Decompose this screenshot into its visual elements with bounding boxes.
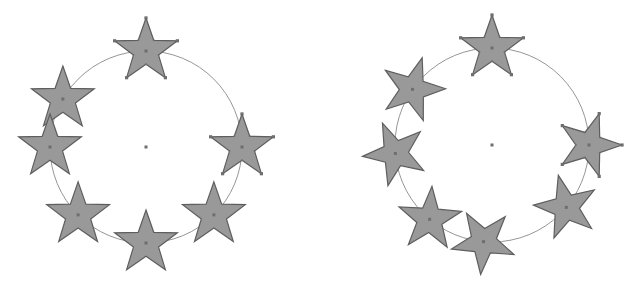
vertex-handle[interactable] xyxy=(260,172,263,175)
vertex-handle[interactable] xyxy=(233,135,235,137)
center-point-icon[interactable] xyxy=(491,144,494,147)
vertex-handle[interactable] xyxy=(599,136,601,138)
star-center-handle[interactable] xyxy=(565,206,568,209)
vertex-handle[interactable] xyxy=(145,63,147,65)
star-center-handle[interactable] xyxy=(61,98,64,101)
vertex-handle[interactable] xyxy=(137,39,139,41)
star-center-handle[interactable] xyxy=(411,88,414,91)
star-center-handle[interactable] xyxy=(145,50,148,53)
vertex-handle[interactable] xyxy=(144,16,147,19)
star-icon[interactable] xyxy=(31,66,94,126)
vertex-handle[interactable] xyxy=(504,51,506,53)
vertex-handle[interactable] xyxy=(584,157,586,159)
vertex-handle[interactable] xyxy=(510,73,513,76)
star-icon[interactable] xyxy=(461,15,524,75)
star-icon[interactable] xyxy=(533,175,594,238)
star-center-handle[interactable] xyxy=(482,240,485,243)
vertex-handle[interactable] xyxy=(598,175,601,178)
star-shape[interactable] xyxy=(31,66,94,126)
star-center-handle[interactable] xyxy=(49,146,52,149)
vertex-handle[interactable] xyxy=(490,13,493,16)
star-shape[interactable] xyxy=(561,112,624,178)
star-icon[interactable] xyxy=(399,186,462,247)
vertex-handle[interactable] xyxy=(575,144,577,146)
vertex-handle[interactable] xyxy=(125,76,128,79)
star-icon[interactable] xyxy=(386,58,446,121)
star-shape[interactable] xyxy=(113,16,179,79)
star-icon[interactable] xyxy=(362,123,423,186)
vertex-handle[interactable] xyxy=(228,150,230,152)
star-shape[interactable] xyxy=(399,186,462,247)
star-center-handle[interactable] xyxy=(394,152,397,155)
vertex-handle[interactable] xyxy=(459,36,462,39)
star-shape[interactable] xyxy=(19,114,82,174)
star-shape[interactable] xyxy=(47,182,110,242)
vertex-handle[interactable] xyxy=(158,54,160,56)
vertex-handle[interactable] xyxy=(483,36,485,38)
vertex-handle[interactable] xyxy=(491,60,493,62)
center-point-icon[interactable] xyxy=(145,146,148,149)
vertex-handle[interactable] xyxy=(561,163,564,166)
vertex-handle[interactable] xyxy=(499,36,501,38)
star-icon[interactable] xyxy=(211,114,274,174)
vertex-handle[interactable] xyxy=(620,143,623,146)
vertex-handle[interactable] xyxy=(209,135,212,138)
star-center-handle[interactable] xyxy=(77,213,80,216)
star-center-handle[interactable] xyxy=(491,47,494,50)
vertex-handle[interactable] xyxy=(561,124,564,127)
vertex-handle[interactable] xyxy=(584,131,586,133)
star-shape[interactable] xyxy=(533,175,594,238)
panel-upright-stars xyxy=(19,16,275,269)
star-icon[interactable] xyxy=(47,182,110,242)
star-icon[interactable] xyxy=(115,210,178,270)
star-shape[interactable] xyxy=(209,112,275,175)
vertex-handle[interactable] xyxy=(249,135,251,137)
vertex-handle[interactable] xyxy=(221,172,224,175)
vertex-handle[interactable] xyxy=(599,152,601,154)
vertex-handle[interactable] xyxy=(113,39,116,42)
star-shape[interactable] xyxy=(182,182,245,242)
vertex-handle[interactable] xyxy=(241,159,243,161)
star-shape[interactable] xyxy=(459,13,525,76)
vertex-handle[interactable] xyxy=(522,36,525,39)
star-shape[interactable] xyxy=(115,210,178,270)
star-icon[interactable] xyxy=(19,114,82,174)
star-circle-diagram xyxy=(0,0,639,288)
vertex-handle[interactable] xyxy=(164,76,167,79)
vertex-handle[interactable] xyxy=(471,73,474,76)
vertex-handle[interactable] xyxy=(240,112,243,115)
star-icon[interactable] xyxy=(182,182,245,242)
vertex-handle[interactable] xyxy=(132,54,134,56)
star-shape[interactable] xyxy=(451,213,514,274)
vertex-handle[interactable] xyxy=(598,112,601,115)
star-center-handle[interactable] xyxy=(212,213,215,216)
star-icon[interactable] xyxy=(451,213,514,274)
star-shape[interactable] xyxy=(386,58,446,121)
star-icon[interactable] xyxy=(562,114,622,177)
star-shape[interactable] xyxy=(362,123,423,186)
star-center-handle[interactable] xyxy=(145,242,148,245)
panel-rotated-stars xyxy=(362,13,623,274)
vertex-handle[interactable] xyxy=(254,150,256,152)
vertex-handle[interactable] xyxy=(478,51,480,53)
star-center-handle[interactable] xyxy=(428,218,431,221)
vertex-handle[interactable] xyxy=(176,39,179,42)
star-icon[interactable] xyxy=(115,18,178,78)
vertex-handle[interactable] xyxy=(272,135,275,138)
star-center-handle[interactable] xyxy=(241,146,244,149)
vertex-handle[interactable] xyxy=(153,39,155,41)
star-center-handle[interactable] xyxy=(588,144,591,147)
